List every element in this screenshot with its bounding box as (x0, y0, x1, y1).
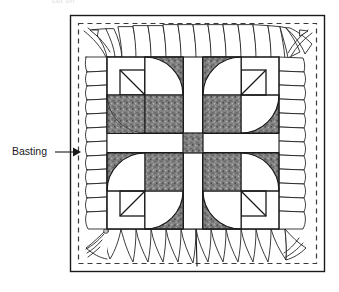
patch-unit (241, 191, 279, 229)
fabric-edge-top (84, 25, 312, 60)
quilt-block-top-left (107, 57, 183, 133)
patch-unit (145, 191, 183, 229)
patch-unit (241, 57, 279, 95)
patch-unit (145, 57, 183, 95)
patch-unit (107, 191, 145, 229)
patch-unit (145, 153, 183, 191)
quilt-block-bottom-left (107, 153, 183, 229)
cut-off-caption: cut off (52, 0, 75, 4)
patch-unit (203, 153, 241, 191)
center-cornerstone (183, 133, 203, 153)
patch-unit (203, 95, 241, 133)
diagram-canvas (0, 0, 339, 292)
quilt-block-bottom-right (203, 153, 279, 229)
fabric-edge-left (85, 57, 107, 229)
quilt-top (107, 57, 279, 229)
patch-unit (145, 95, 183, 133)
quilt-basting-diagram: cut off Basting (0, 0, 339, 292)
fabric-edge-right (279, 57, 306, 229)
quilt-block-top-right (203, 57, 279, 133)
patch-unit (107, 57, 145, 95)
patch-unit (203, 57, 241, 95)
basting-callout-label: Basting (12, 145, 47, 157)
patch-unit (203, 191, 241, 229)
